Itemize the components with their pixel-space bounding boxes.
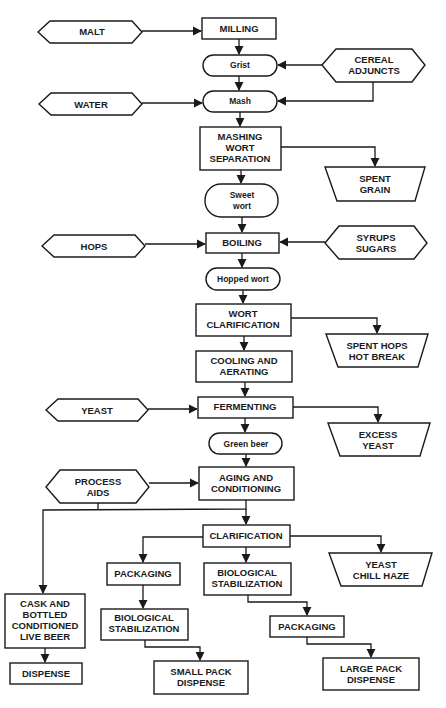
arrow-clarification-chill-haze [290, 536, 381, 552]
intermediate-sweet-wort: Sweet wort [205, 184, 278, 217]
input-process-aids: PROCESS AIDS [46, 470, 149, 503]
arrow-biostab-small-pack [145, 640, 200, 660]
svg-text:FERMENTING: FERMENTING [214, 401, 277, 412]
svg-text:SUGARS: SUGARS [356, 243, 397, 254]
arrow-clarification-packaging [143, 537, 203, 562]
output-yeast-chill-haze: YEAST CHILL HAZE [329, 553, 432, 586]
svg-text:BOTTLED: BOTTLED [23, 609, 68, 620]
intermediate-grist: Grist [203, 55, 277, 76]
process-wort-clarification: WORT CLARIFICATION [196, 304, 291, 336]
svg-text:CLARIFICATION: CLARIFICATION [206, 319, 279, 330]
input-malt: MALT [38, 21, 142, 43]
svg-text:COOLING AND: COOLING AND [210, 355, 277, 366]
svg-text:AERATING: AERATING [220, 366, 269, 377]
process-small-pack-dispense: SMALL PACK DISPENSE [154, 661, 248, 694]
svg-text:DISPENSE: DISPENSE [177, 677, 225, 688]
svg-text:AGING AND: AGING AND [219, 472, 273, 483]
svg-text:CONDITIONED: CONDITIONED [12, 620, 79, 631]
svg-text:PACKAGING: PACKAGING [114, 568, 171, 579]
arrow-biostab-packaging [248, 595, 307, 615]
process-dispense: DISPENSE [10, 663, 82, 684]
input-hops: HOPS [42, 235, 145, 257]
svg-text:PROCESS: PROCESS [75, 476, 121, 487]
process-biological-stabilization-left: BIOLOGICAL STABILIZATION [101, 609, 188, 640]
input-yeast: YEAST [46, 399, 148, 421]
svg-text:Sweet: Sweet [230, 190, 255, 200]
arrow-clarification-spent-hops [291, 318, 377, 333]
arrow-packaging-large-pack [307, 637, 371, 657]
process-clarification: CLARIFICATION [203, 525, 290, 547]
svg-text:WORT: WORT [228, 308, 257, 319]
process-packaging-right: PACKAGING [270, 616, 344, 637]
intermediate-mash: Mash [203, 91, 277, 112]
arrow-fermenting-excess-yeast [293, 407, 378, 422]
svg-text:STABILIZATION: STABILIZATION [109, 623, 180, 634]
process-cask-bottled-conditioned: CASK AND BOTTLED CONDITIONED LIVE BEER [5, 594, 85, 648]
intermediate-hopped-wort: Hopped wort [206, 268, 280, 290]
svg-text:DISPENSE: DISPENSE [22, 668, 70, 679]
svg-text:STABILIZATION: STABILIZATION [212, 578, 283, 589]
svg-text:YEAST: YEAST [81, 405, 113, 416]
output-spent-grain: SPENT GRAIN [325, 167, 425, 201]
svg-text:SMALL PACK: SMALL PACK [170, 666, 232, 677]
input-syrups-sugars: SYRUPS SUGARS [325, 226, 427, 259]
process-mashing-wort-separation: MASHING WORT SEPARATION [200, 127, 281, 170]
svg-text:SEPARATION: SEPARATION [210, 153, 271, 164]
process-milling: MILLING [202, 18, 276, 39]
svg-text:GRAIN: GRAIN [360, 184, 391, 195]
svg-text:Grist: Grist [230, 60, 250, 70]
svg-text:MALT: MALT [79, 26, 105, 37]
arrow-mashing-spent-grain [281, 147, 375, 166]
svg-text:LIVE BEER: LIVE BEER [20, 631, 70, 642]
svg-text:CONDITIONING: CONDITIONING [211, 483, 281, 494]
svg-text:CLARIFICATION: CLARIFICATION [209, 530, 282, 541]
svg-text:WATER: WATER [74, 99, 108, 110]
svg-text:WORT: WORT [225, 142, 254, 153]
svg-text:MASHING: MASHING [218, 131, 263, 142]
svg-text:CASK AND: CASK AND [20, 598, 70, 609]
svg-text:CEREAL: CEREAL [354, 54, 393, 65]
svg-text:YEAST: YEAST [362, 440, 394, 451]
svg-text:wort: wort [232, 201, 251, 211]
input-cereal-adjuncts: CEREAL ADJUNCTS [322, 49, 425, 82]
svg-text:AIDS: AIDS [87, 487, 110, 498]
process-packaging-left: PACKAGING [107, 563, 180, 585]
svg-text:BIOLOGICAL: BIOLOGICAL [217, 567, 277, 578]
svg-text:Hopped wort: Hopped wort [217, 274, 269, 284]
svg-text:Green beer: Green beer [224, 439, 270, 449]
svg-text:PACKAGING: PACKAGING [278, 621, 335, 632]
process-boiling: BOILING [206, 233, 279, 253]
svg-text:HOT BREAK: HOT BREAK [349, 351, 406, 362]
process-fermenting: FERMENTING [198, 397, 293, 418]
svg-text:YEAST: YEAST [365, 559, 397, 570]
output-excess-yeast: EXCESS YEAST [328, 423, 430, 456]
input-water: WATER [39, 93, 142, 115]
process-aging-conditioning: AGING AND CONDITIONING [199, 467, 294, 500]
process-cooling-aerating: COOLING AND AERATING [196, 351, 292, 382]
svg-text:BIOLOGICAL: BIOLOGICAL [114, 612, 174, 623]
svg-text:Mash: Mash [229, 96, 251, 106]
svg-text:SYRUPS: SYRUPS [356, 232, 395, 243]
svg-text:SPENT HOPS: SPENT HOPS [346, 340, 407, 351]
svg-text:CHILL HAZE: CHILL HAZE [353, 570, 409, 581]
svg-text:SPENT: SPENT [359, 173, 391, 184]
output-spent-hops-hot-break: SPENT HOPS HOT BREAK [326, 334, 428, 367]
svg-text:HOPS: HOPS [81, 241, 108, 252]
svg-text:ADJUNCTS: ADJUNCTS [348, 65, 400, 76]
brewing-flowchart: MALT CEREAL ADJUNCTS WATER HOPS SYRUPS S… [0, 0, 446, 708]
svg-text:MILLING: MILLING [219, 23, 258, 34]
arrow-adjuncts-mash [278, 82, 373, 101]
svg-text:EXCESS: EXCESS [359, 429, 398, 440]
process-biological-stabilization-mid: BIOLOGICAL STABILIZATION [204, 563, 291, 595]
svg-text:DISPENSE: DISPENSE [347, 674, 395, 685]
intermediate-green-beer: Green beer [209, 433, 282, 454]
svg-text:BOILING: BOILING [222, 237, 262, 248]
process-large-pack-dispense: LARGE PACK DISPENSE [323, 658, 419, 690]
svg-text:LARGE PACK: LARGE PACK [340, 663, 402, 674]
